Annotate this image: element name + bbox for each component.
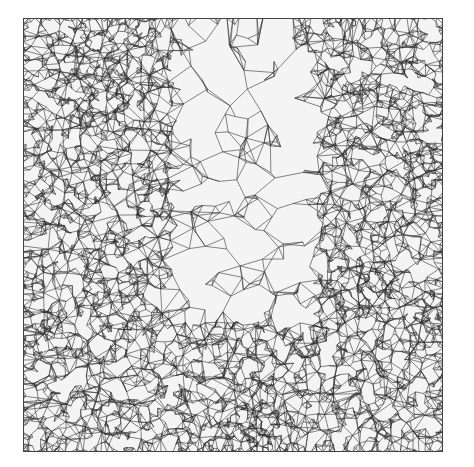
triangular-mesh [23, 18, 443, 452]
